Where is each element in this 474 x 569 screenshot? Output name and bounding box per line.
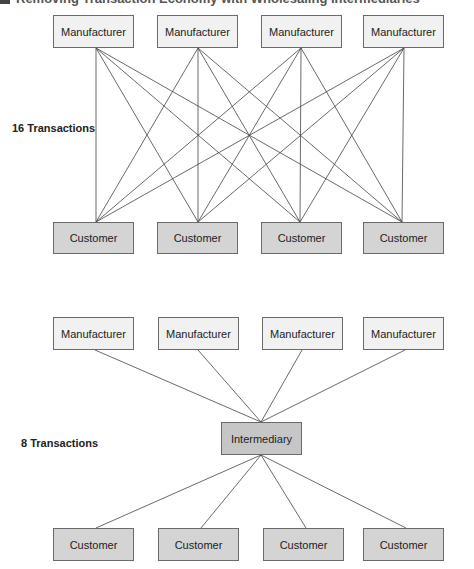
bottom-manufacturer-2: Manufacturer bbox=[158, 317, 239, 350]
top-manufacturer-3: Manufacturer bbox=[261, 15, 342, 48]
top-customer-2: Customer bbox=[157, 222, 238, 254]
bottom-manufacturer-3: Manufacturer bbox=[262, 317, 343, 350]
bottom-customer-3: Customer bbox=[263, 528, 344, 561]
direct-transactions-label: 16 Transactions bbox=[12, 122, 95, 134]
connection-lines bbox=[0, 0, 474, 569]
intermediary-box: Intermediary bbox=[221, 422, 302, 455]
top-manufacturer-1: Manufacturer bbox=[53, 15, 134, 48]
top-manufacturer-4: Manufacturer bbox=[363, 15, 444, 48]
top-customer-4: Customer bbox=[363, 222, 444, 254]
bottom-customer-1: Customer bbox=[53, 528, 134, 561]
bottom-manufacturer-1: Manufacturer bbox=[53, 317, 134, 350]
bottom-manufacturer-4: Manufacturer bbox=[363, 317, 444, 350]
bottom-customer-4: Customer bbox=[363, 528, 444, 561]
intermediated-transactions-label: 8 Transactions bbox=[21, 437, 98, 449]
top-manufacturer-2: Manufacturer bbox=[157, 15, 238, 48]
top-customer-1: Customer bbox=[53, 222, 134, 254]
bottom-customer-2: Customer bbox=[158, 528, 239, 561]
top-customer-3: Customer bbox=[261, 222, 342, 254]
